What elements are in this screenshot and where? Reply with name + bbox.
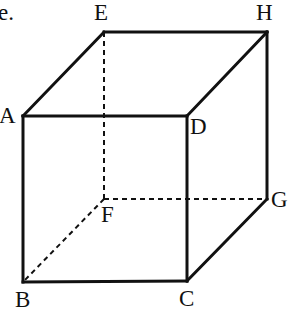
vertex-label-D: D [190,115,207,138]
item-letter-label: e. [0,1,14,24]
vertex-label-G: G [271,188,288,211]
vertex-label-A: A [0,104,16,127]
vertex-label-F: F [101,203,114,226]
edge-A-E [23,32,104,116]
edge-B-C [23,281,187,282]
vertex-label-C: C [179,287,194,310]
vertex-label-E: E [94,1,108,24]
cube-figure: e. E H A D G F B C [0,0,291,310]
vertex-label-B: B [15,288,30,310]
vertex-label-H: H [256,1,273,24]
cube-drawing [0,0,291,310]
edge-G-C [187,199,267,281]
edge-D-H [187,32,267,116]
edge-F-B [23,199,104,282]
